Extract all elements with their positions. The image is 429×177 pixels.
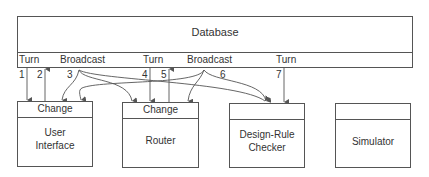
design-rule-checker-header (230, 104, 304, 120)
database-title: Database (18, 26, 412, 38)
database-divider (18, 52, 412, 53)
user-interface-label: User Interface (18, 126, 92, 152)
port-broadcast-1: Broadcast (60, 54, 105, 65)
label-line-1: Design-Rule (230, 128, 304, 141)
user-interface-change-port: Change (18, 102, 92, 118)
port-broadcast-2: Broadcast (187, 54, 232, 65)
simulator-header (336, 104, 410, 120)
router-change-port: Change (123, 103, 198, 119)
port-turn-3: Turn (276, 54, 296, 65)
arrow-label-3: 3 (67, 69, 73, 80)
port-turn-1: Turn (19, 54, 39, 65)
simulator-box: Simulator (335, 103, 411, 168)
simulator-label: Simulator (336, 135, 410, 148)
arrow-label-6: 6 (220, 69, 226, 80)
arrow-label-4: 4 (142, 69, 148, 80)
label-line-2: Interface (18, 139, 92, 152)
port-turn-2: Turn (143, 54, 163, 65)
arrow-label-7: 7 (276, 69, 282, 80)
label-line-1: Simulator (336, 135, 410, 148)
label-line-1: Router (123, 134, 198, 147)
design-rule-checker-label: Design-Rule Checker (230, 128, 304, 154)
design-rule-checker-box: Design-Rule Checker (229, 103, 305, 168)
arrow-label-5: 5 (161, 69, 167, 80)
router-box: Change Router (122, 102, 199, 168)
arrow-label-1: 1 (19, 69, 25, 80)
user-interface-box: Change User Interface (17, 101, 93, 167)
database-box: Database Turn Broadcast Turn Broadcast T… (17, 16, 413, 68)
router-label: Router (123, 134, 198, 147)
arrow-label-2: 2 (37, 69, 43, 80)
label-line-2: Checker (230, 141, 304, 154)
label-line-1: User (18, 126, 92, 139)
